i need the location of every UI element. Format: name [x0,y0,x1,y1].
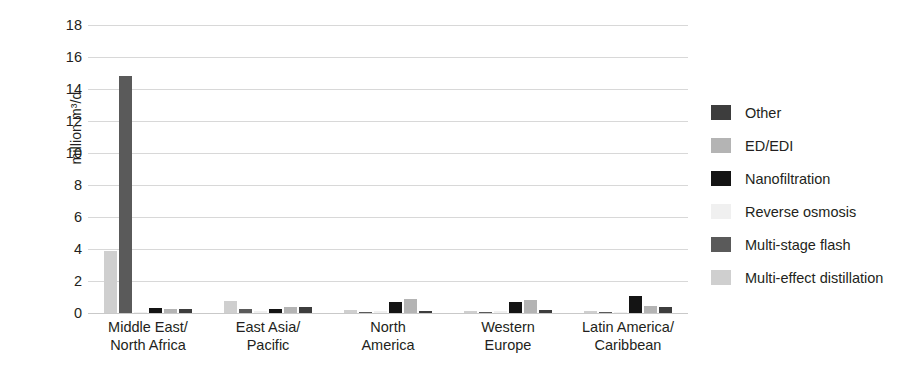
y-tick-label-16: 16 [48,49,82,65]
bar [254,311,267,313]
y-tick-label-8: 8 [48,177,82,193]
bar-group [448,25,568,313]
y-tick-label-2: 2 [48,273,82,289]
bar-group [88,25,208,313]
bar [494,311,507,313]
bar [389,302,402,313]
legend-item-label: Reverse osmosis [745,204,856,220]
y-axis-tick-labels: 181614121086420 [42,25,82,313]
bar [119,76,132,313]
legend-item[interactable]: Multi-stage flash [711,228,901,261]
bar [104,251,117,313]
legend-item[interactable]: Other [711,96,901,129]
bar [224,301,237,313]
legend-item-label: Nanofiltration [745,171,830,187]
legend-item-label: ED/EDI [745,138,793,154]
bar [509,302,522,313]
plot-area [88,25,688,313]
bar [419,311,432,313]
legend-item-label: Other [745,105,781,121]
bar [464,311,477,313]
legend-item-label: Multi-stage flash [745,237,851,253]
y-tick-label-12: 12 [48,113,82,129]
y-tick-label-6: 6 [48,209,82,225]
bar [284,307,297,313]
bar [479,312,492,313]
bar [404,299,417,313]
legend-swatch-icon [711,204,731,219]
bar [134,312,147,313]
bar [614,312,627,313]
bar [299,307,312,313]
y-tick-label-14: 14 [48,81,82,97]
y-tick-label-4: 4 [48,241,82,257]
legend-item[interactable]: Reverse osmosis [711,195,901,228]
bar [584,311,597,313]
bar-group [208,25,328,313]
legend-swatch-icon [711,105,731,120]
x-axis-label: Latin America/ Caribbean [548,318,708,354]
bar [239,309,252,313]
legend-item[interactable]: ED/EDI [711,129,901,162]
bar [659,307,672,313]
y-tick-label-10: 10 [48,145,82,161]
bar-group [568,25,688,313]
bar-group [328,25,448,313]
gridline-0 [88,313,688,314]
legend-item-label: Multi-effect distillation [745,270,883,286]
legend-item[interactable]: Multi-effect distillation [711,261,901,294]
bar [524,300,537,313]
chart-legend: OtherED/EDINanofiltrationReverse osmosis… [711,96,901,294]
legend-item[interactable]: Nanofiltration [711,162,901,195]
bar [344,310,357,313]
bar [359,312,372,313]
legend-swatch-icon [711,270,731,285]
legend-swatch-icon [711,171,731,186]
legend-swatch-icon [711,237,731,252]
bar [599,312,612,313]
bar [629,296,642,313]
bar-chart-figure: million m³/d 181614121086420 Middle East… [0,0,904,370]
legend-swatch-icon [711,138,731,153]
bar [149,308,162,313]
bar [179,309,192,313]
bar [269,309,282,313]
bar [644,306,657,313]
bar [539,310,552,313]
y-tick-label-18: 18 [48,17,82,33]
bar [374,311,387,313]
bar [164,309,177,313]
